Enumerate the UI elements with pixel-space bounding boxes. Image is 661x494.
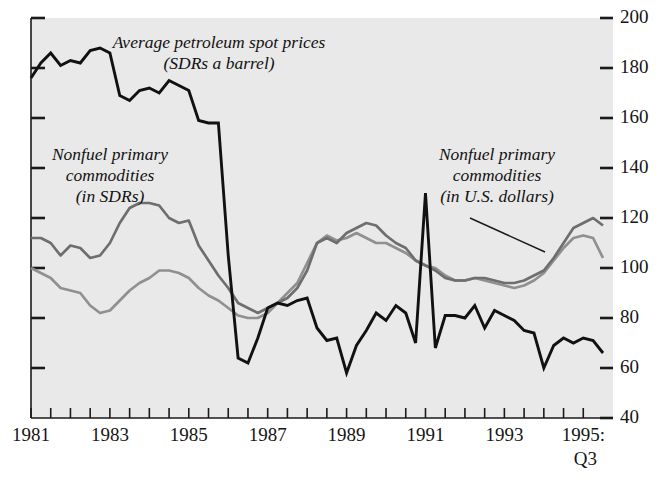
y-axis-label-140: 140 xyxy=(620,156,649,177)
x-axis-label-1993: 1993 xyxy=(485,424,523,445)
x-axis-label-1983: 1983 xyxy=(91,424,129,445)
x-axis-sublabel-quarter: Q3 xyxy=(574,448,597,469)
usd-label-line-2: commodities xyxy=(453,165,542,185)
x-axis-label-1989: 1989 xyxy=(328,424,366,445)
x-axis-label-1987: 1987 xyxy=(249,424,287,445)
petroleum-label-line-1: Average petroleum spot prices xyxy=(112,32,326,52)
y-axis-label-100: 100 xyxy=(620,256,649,277)
y-axis-label-180: 180 xyxy=(620,56,649,77)
x-axis-label-1985: 1985 xyxy=(170,424,208,445)
commodity-price-chart: 406080100120140160180200 198119831985198… xyxy=(0,0,661,494)
x-axis-label-1981: 1981 xyxy=(12,424,50,445)
y-axis-label-80: 80 xyxy=(620,306,639,327)
x-axis-label-1991: 1991 xyxy=(406,424,444,445)
sdr-label-line-2: commodities xyxy=(66,165,155,185)
y-axis-label-60: 60 xyxy=(620,356,639,377)
petroleum-label-line-2: (SDRs a barrel) xyxy=(163,53,274,73)
usd-label-line-3: (in U.S. dollars) xyxy=(440,186,554,206)
plot-area-background xyxy=(31,18,613,418)
usd-label-line-1: Nonfuel primary xyxy=(438,144,555,164)
y-axis-label-200: 200 xyxy=(620,6,649,27)
y-axis-label-120: 120 xyxy=(620,206,649,227)
y-axis-label-160: 160 xyxy=(620,106,649,127)
y-axis-label-40: 40 xyxy=(620,406,639,427)
sdr-label-line-3: (in SDRs) xyxy=(76,186,145,206)
sdr-label-line-1: Nonfuel primary xyxy=(51,144,168,164)
x-axis-label-1995: 1995: xyxy=(562,424,605,445)
